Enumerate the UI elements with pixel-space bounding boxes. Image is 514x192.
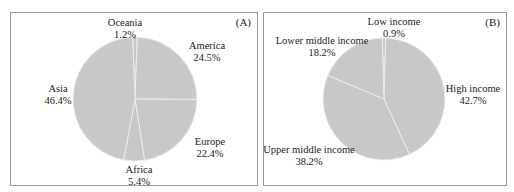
label-high-income-name: High income bbox=[446, 83, 501, 95]
label-america-pct: 24.5% bbox=[189, 52, 225, 64]
label-upper-middle-pct: 38.2% bbox=[263, 156, 355, 168]
label-europe: Europe 22.4% bbox=[195, 136, 225, 160]
pie-chart-panel-a: (A) Oceania 1.2% America 24.5% Europe 22… bbox=[10, 12, 258, 186]
label-high-income-pct: 42.7% bbox=[446, 95, 501, 107]
label-upper-middle-income: Upper middle income 38.2% bbox=[263, 144, 355, 168]
pie-slice-america bbox=[135, 37, 197, 99]
label-lower-middle-income: Lower middle income 18.2% bbox=[276, 35, 369, 59]
label-asia-name: Asia bbox=[44, 83, 71, 95]
label-low-income-pct: 0.9% bbox=[368, 28, 421, 40]
label-upper-middle-name: Upper middle income bbox=[263, 144, 355, 156]
label-america: America 24.5% bbox=[189, 40, 225, 64]
label-lower-middle-pct: 18.2% bbox=[276, 47, 369, 59]
label-low-income: Low income 0.9% bbox=[368, 16, 421, 40]
label-oceania-name: Oceania bbox=[108, 17, 142, 29]
label-europe-pct: 22.4% bbox=[195, 148, 225, 160]
label-high-income: High income 42.7% bbox=[446, 83, 501, 107]
pie-a-slices bbox=[73, 37, 197, 161]
label-oceania: Oceania 1.2% bbox=[108, 17, 142, 41]
label-africa: Africa 5.4% bbox=[126, 164, 153, 188]
panel-label-a: (A) bbox=[236, 16, 251, 28]
label-low-income-name: Low income bbox=[368, 16, 421, 28]
label-asia-pct: 46.4% bbox=[44, 95, 71, 107]
label-asia: Asia 46.4% bbox=[44, 83, 71, 107]
pie-chart-panel-b: (B) Low income 0.9% Lower middle income … bbox=[263, 12, 507, 186]
pie-slice-europe bbox=[135, 99, 197, 160]
label-africa-name: Africa bbox=[126, 164, 153, 176]
label-oceania-pct: 1.2% bbox=[108, 29, 142, 41]
label-america-name: America bbox=[189, 40, 225, 52]
label-europe-name: Europe bbox=[195, 136, 225, 148]
label-africa-pct: 5.4% bbox=[126, 176, 153, 188]
label-lower-middle-name: Lower middle income bbox=[276, 35, 369, 47]
pie-slice-asia bbox=[73, 37, 135, 160]
panel-label-b: (B) bbox=[485, 16, 500, 28]
